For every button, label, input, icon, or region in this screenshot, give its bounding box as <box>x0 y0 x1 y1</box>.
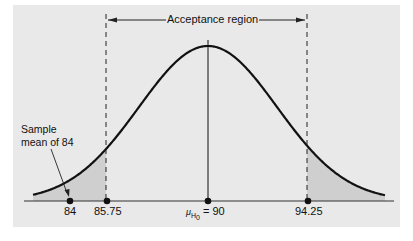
point-94-25 <box>305 198 312 205</box>
tick-label-85-75: 85.75 <box>94 205 122 217</box>
left-rejection-region <box>33 149 106 201</box>
sample-mean-annotation: Sample mean of 84 <box>21 123 74 149</box>
point-85-75 <box>104 198 111 205</box>
acceptance-region-label: Acceptance region <box>166 13 259 25</box>
mu-subsubscript: 0 <box>196 215 200 222</box>
tick-label-94-25: 94.25 <box>295 205 323 217</box>
mean-label: μH0 = 90 <box>186 205 225 222</box>
tick-label-84: 84 <box>64 205 76 217</box>
arrow-right-icon <box>296 18 305 23</box>
annotation-line-1: Sample <box>21 123 74 136</box>
point-90 <box>205 198 212 205</box>
mean-value: = 90 <box>203 205 225 217</box>
arrow-left-icon <box>108 18 117 23</box>
point-84 <box>67 198 74 205</box>
annotation-line-2: mean of 84 <box>21 136 74 149</box>
